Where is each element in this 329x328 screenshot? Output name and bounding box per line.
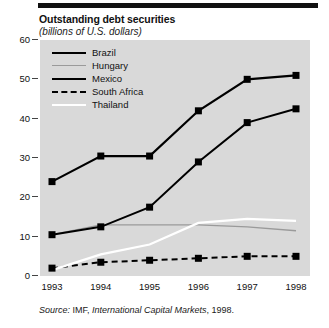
legend-label-mexico: Mexico [92,72,122,85]
legend-item-brazil: Brazil [52,47,202,59]
x-tick-label-1994: 1994 [90,281,111,292]
y-tick-label-0: 0 [25,270,30,282]
data-point-brazil-1994 [97,153,104,160]
y-tick-label-60: 60 [19,34,30,46]
x-axis: 199319941995199619971998 [40,281,310,295]
y-tick-label-50: 50 [19,73,30,85]
legend-swatch-hungary [52,60,86,72]
data-point-south-africa-1996 [195,255,202,262]
chart-title: Outstanding debt securities [39,13,309,26]
x-tick-label-1993: 1993 [41,281,62,292]
legend-label-thailand: Thailand [92,98,128,111]
data-point-south-africa-1997 [244,253,251,260]
y-tick-mark-10 [32,236,38,237]
chart-heading: Outstanding debt securities (billions of… [39,13,309,38]
legend-item-hungary: Hungary [52,60,202,72]
x-tick-label-1997: 1997 [237,281,258,292]
y-tick-mark-0 [32,275,38,276]
data-point-brazil-1998 [293,72,300,79]
legend-item-thailand: Thailand [52,99,202,111]
legend-label-south-africa: South Africa [92,85,143,98]
top-rule-divider [38,3,318,8]
y-axis: 6050403020100 [0,38,40,282]
legend-swatch-south-africa [52,86,86,98]
data-point-mexico-1996 [195,158,202,165]
x-tick-label-1996: 1996 [188,281,209,292]
source-year: , 1998. [207,305,235,315]
data-point-brazil-1993 [49,178,56,185]
data-point-south-africa-1998 [293,253,300,260]
y-tick-mark-50 [32,78,38,79]
data-point-mexico-1997 [244,119,251,126]
source-note: Source: IMF, International Capital Marke… [39,305,234,315]
legend-swatch-brazil [52,47,86,59]
y-tick-label-40: 40 [19,113,30,125]
series-line-thailand [52,219,296,270]
legend-item-mexico: Mexico [52,73,202,85]
legend-label-brazil: Brazil [92,46,116,59]
source-lead: Source: [39,305,70,315]
data-point-south-africa-1994 [97,259,104,266]
source-publication: International Capital Markets [92,305,207,315]
y-tick-mark-60 [32,39,38,40]
chart-legend: Brazil Hungary Mexico South Africa Thail… [52,47,202,112]
data-point-brazil-1995 [146,153,153,160]
y-tick-mark-40 [32,118,38,119]
data-point-mexico-1993 [49,231,56,238]
data-point-brazil-1997 [244,76,251,83]
y-tick-label-30: 30 [19,152,30,164]
series-line-mexico [52,109,296,235]
source-org: IMF, [70,305,92,315]
data-point-mexico-1998 [293,105,300,112]
chart-figure: Outstanding debt securities (billions of… [0,0,329,328]
chart-subtitle: (billions of U.S. dollars) [39,26,309,38]
legend-swatch-thailand [52,99,86,111]
data-point-mexico-1995 [146,204,153,211]
y-tick-mark-30 [32,157,38,158]
x-tick-label-1998: 1998 [285,281,306,292]
x-tick-label-1995: 1995 [139,281,160,292]
legend-item-south-africa: South Africa [52,86,202,98]
legend-label-hungary: Hungary [92,59,128,72]
y-tick-mark-20 [32,196,38,197]
legend-swatch-mexico [52,73,86,85]
y-tick-label-20: 20 [19,191,30,203]
y-tick-label-10: 10 [19,231,30,243]
data-point-mexico-1994 [97,223,104,230]
data-point-south-africa-1993 [49,265,56,272]
data-point-south-africa-1995 [146,257,153,264]
